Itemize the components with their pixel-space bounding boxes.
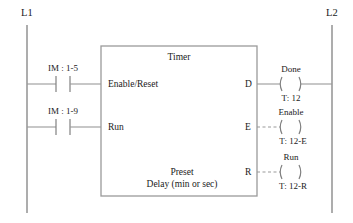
run-contact-label: IM : 1-9 (48, 107, 78, 116)
timer-output-e-label: E (245, 123, 251, 133)
run-coil-address: T: 12-R (279, 182, 307, 191)
run-coil-left-paren (280, 165, 282, 179)
enable-reset-contact-label: IM : 1-5 (48, 64, 78, 73)
timer-preset-delay-label: Delay (min or sec) (147, 180, 218, 190)
run-coil-right-paren (299, 165, 301, 179)
enable-coil-right-paren (299, 120, 301, 134)
done-coil-left-paren (280, 77, 282, 91)
timer-output-d-label: D (245, 80, 252, 90)
run-coil-label: Run (283, 153, 298, 162)
timer-input-enable-reset-label: Enable/Reset (108, 80, 158, 90)
timer-preset-label: Preset (170, 168, 193, 178)
left-rail-label: L1 (21, 8, 33, 19)
ladder-diagram-canvas: L1 L2 IM : 1-5 IM : 1-9 Timer Enable/Res… (0, 0, 353, 223)
enable-coil-label: Enable (279, 108, 304, 117)
timer-block-title: Timer (168, 53, 191, 63)
enable-coil-address: T: 12-E (279, 137, 306, 146)
right-rail-label: L2 (326, 8, 338, 19)
enable-coil-left-paren (280, 120, 282, 134)
done-coil-label: Done (281, 65, 301, 74)
timer-output-r-label: R (245, 168, 251, 178)
timer-input-run-label: Run (108, 123, 124, 133)
done-coil-address: T: 12 (282, 94, 301, 103)
done-coil-right-paren (299, 77, 301, 91)
